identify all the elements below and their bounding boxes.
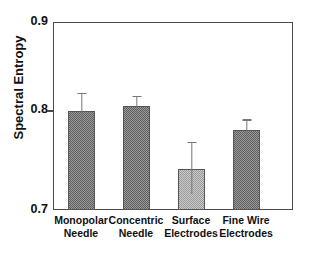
x-label-line1: Fine Wire	[209, 214, 283, 227]
bars-layer	[53, 22, 293, 210]
error-bar-monopolar-needle	[81, 94, 82, 128]
bar-slot-concentric-needle	[123, 22, 150, 210]
error-cap-top-concentric-needle	[132, 96, 141, 97]
error-cap-top-monopolar-needle	[77, 93, 86, 94]
bar-slot-monopolar-needle	[68, 22, 95, 210]
error-cap-top-fine-wire-electrodes	[242, 119, 251, 120]
error-bar-fine-wire-electrodes	[246, 121, 247, 140]
error-bar-surface-electrodes	[191, 143, 192, 194]
x-axis-labels: Monopolar Needle Concentric Needle Surfa…	[53, 214, 293, 250]
bar-chart-figure: 0.9 0.8 0.7 Spectral Entropy Monopolar N…	[0, 0, 310, 254]
bar-concentric-needle	[123, 106, 150, 210]
y-axis-tick-bottom: 0.7	[14, 202, 48, 216]
bar-fine-wire-electrodes	[233, 130, 260, 210]
x-label-fine-wire-electrodes: Fine Wire Electrodes	[209, 214, 283, 239]
error-cap-top-surface-electrodes	[187, 142, 196, 143]
title-remnant	[150, 0, 300, 7]
bar-slot-surface-electrodes	[178, 22, 205, 210]
x-label-line2: Electrodes	[209, 227, 283, 240]
bar-slot-fine-wire-electrodes	[233, 22, 260, 210]
y-axis-label: Spectral Entropy	[11, 18, 26, 158]
error-bar-concentric-needle	[136, 97, 137, 114]
